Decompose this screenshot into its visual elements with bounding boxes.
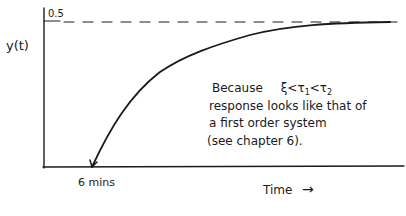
note-line-4: (see chapter 6).	[207, 134, 303, 148]
note-line-1: Because ξ<τ1<τ2	[212, 81, 332, 97]
note-line-2: response looks like that of	[209, 99, 367, 113]
y-axis-label: y(t)	[6, 38, 29, 53]
response-chart: y(t) 0.5 6 mins Time → Because ξ<τ1<τ2 r…	[0, 0, 406, 216]
dead-time-label: 6 mins	[78, 176, 115, 189]
note-line-3: a first order system	[209, 116, 327, 130]
annotation-note: Because ξ<τ1<τ2 response looks like that…	[207, 81, 367, 148]
x-axis	[43, 166, 404, 167]
y-tick-label: 0.5	[48, 8, 64, 19]
x-axis-label: Time	[262, 183, 292, 197]
x-axis-arrow-icon: →	[302, 181, 314, 197]
